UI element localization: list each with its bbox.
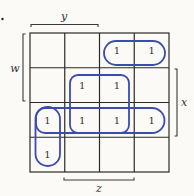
- cell-1-1: 1: [79, 80, 85, 91]
- label-y: y: [60, 10, 68, 23]
- marker-dot: [1, 18, 3, 20]
- bracket-y: y: [31, 10, 98, 27]
- cell-2-1: 1: [79, 115, 85, 126]
- grouping-loops: [36, 41, 166, 166]
- bracket-z: z: [64, 178, 134, 196]
- bracket-x: x: [175, 69, 188, 136]
- cell-2-3: 1: [148, 115, 154, 126]
- cell-3-0: 1: [44, 149, 50, 160]
- cell-2-0: 1: [44, 115, 50, 126]
- bracket-w: w: [10, 34, 25, 101]
- cell-2-2: 1: [114, 115, 120, 126]
- label-w: w: [10, 62, 20, 75]
- label-x: x: [181, 96, 188, 109]
- cell-0-2: 1: [114, 45, 120, 56]
- label-z: z: [95, 182, 102, 195]
- cell-0-3: 1: [148, 45, 154, 56]
- cell-1-2: 1: [114, 80, 120, 91]
- karnaugh-map: y w x z 1 1 1 1 1 1 1 1 1: [0, 0, 194, 195]
- loop-row2-all: [36, 108, 165, 133]
